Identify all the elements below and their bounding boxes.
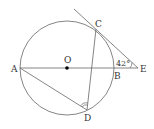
angle-mark-e bbox=[130, 63, 132, 69]
angle-mark-d-inner bbox=[82, 105, 88, 107]
label-b: B bbox=[114, 71, 121, 81]
label-d: D bbox=[84, 113, 91, 123]
segment-ad bbox=[20, 68, 87, 110]
label-a: A bbox=[10, 64, 18, 74]
geometry-diagram: A O B C D E 42° bbox=[0, 0, 154, 129]
segment-cd bbox=[87, 29, 96, 110]
label-e: E bbox=[140, 64, 147, 74]
angle-label-e: 42° bbox=[116, 59, 130, 68]
center-point-o bbox=[65, 66, 69, 70]
angle-mark-d-outer bbox=[81, 103, 89, 106]
label-c: C bbox=[95, 19, 102, 29]
label-o: O bbox=[64, 55, 71, 65]
